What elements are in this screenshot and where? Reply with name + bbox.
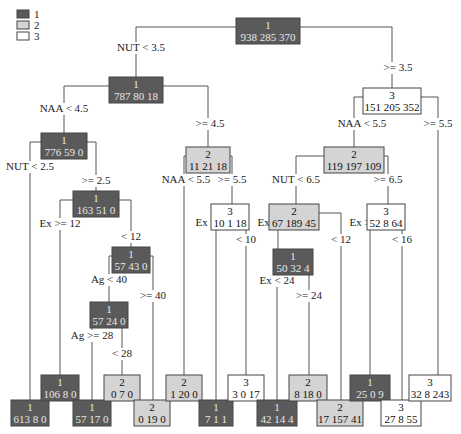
- legend: 1 2 3: [17, 8, 40, 42]
- node-class-label: 3: [227, 205, 233, 217]
- node-counts: 57 43 0: [115, 260, 149, 272]
- tree-node: 33 0 17: [228, 375, 264, 401]
- node-counts: 3 0 17: [232, 388, 260, 400]
- split-label: < 16: [392, 233, 412, 245]
- node-class-label: 1: [57, 376, 63, 388]
- split-label: >= 2.5: [82, 174, 111, 186]
- node-counts: 8 18 0: [294, 388, 322, 400]
- split-label: NAA < 4.5: [40, 102, 89, 114]
- node-counts: 1 20 0: [170, 388, 198, 400]
- legend-swatch-class-3: [17, 32, 29, 40]
- node-class-label: 2: [291, 205, 297, 217]
- node-counts: 52 8 64: [370, 217, 404, 229]
- node-class-label: 3: [389, 89, 395, 101]
- node-class-label: 2: [181, 376, 187, 388]
- tree-node: 17 1 1: [199, 400, 233, 426]
- split-label: Ag >= 28: [71, 329, 114, 341]
- node-class-label: 3: [243, 376, 249, 388]
- tree-node: 310 1 18: [211, 204, 249, 230]
- split-label: NAA < 5.5: [162, 173, 211, 185]
- tree-node: 352 8 64: [367, 204, 405, 230]
- split-label: >= 5.5: [218, 173, 247, 185]
- split-label: >= 24: [296, 289, 323, 301]
- node-class-label: 1: [133, 78, 139, 90]
- node-class-label: 1: [27, 401, 33, 413]
- node-counts: 32 8 243: [411, 388, 450, 400]
- node-counts: 776 59 0: [45, 146, 84, 158]
- split-label: Ex < 24: [260, 274, 295, 286]
- split-label: >= 40: [140, 289, 167, 301]
- node-class-label: 1: [128, 248, 134, 260]
- tree-node: 2119 197 109: [324, 147, 384, 173]
- split-label: < 12: [121, 230, 141, 242]
- node-class-label: 1: [89, 401, 95, 413]
- tree-node: 211 21 18: [186, 147, 230, 173]
- node-class-label: 1: [106, 303, 112, 315]
- tree-node: 332 8 243: [409, 375, 451, 401]
- node-counts: 57 17 0: [76, 413, 110, 425]
- node-counts: 0 19 0: [138, 413, 166, 425]
- node-class-label: 2: [337, 401, 343, 413]
- node-counts: 67 189 45: [272, 217, 317, 229]
- tree-node: 1938 285 370: [236, 18, 300, 44]
- node-counts: 10 1 18: [214, 217, 248, 229]
- node-counts: 11 21 18: [189, 160, 228, 172]
- node-class-label: 3: [383, 205, 389, 217]
- tree-node: 267 189 45: [269, 204, 319, 230]
- tree-node: 1613 8 0: [11, 400, 49, 426]
- split-label: >= 3.5: [384, 61, 413, 73]
- node-class-label: 2: [205, 148, 211, 160]
- legend-swatch-class-2: [17, 21, 29, 29]
- node-counts: 50 32 4: [277, 262, 311, 274]
- node-counts: 17 157 41: [318, 413, 362, 425]
- tree-node: 21 20 0: [166, 375, 202, 401]
- split-label: < 28: [112, 347, 132, 359]
- node-class-label: 1: [290, 250, 296, 262]
- node-class-label: 1: [274, 401, 280, 413]
- split-label: < 12: [331, 233, 351, 245]
- split-label: Ex >= 12: [39, 217, 80, 229]
- node-class-label: 2: [119, 376, 125, 388]
- node-class-label: 2: [351, 148, 357, 160]
- node-class-label: 1: [367, 376, 373, 388]
- node-class-label: 3: [398, 401, 404, 413]
- node-class-label: 1: [93, 192, 99, 204]
- node-counts: 42 14 4: [261, 413, 295, 425]
- tree-node: 157 17 0: [73, 400, 111, 426]
- split-label: >= 4.5: [196, 117, 225, 129]
- node-counts: 27 8 55: [385, 413, 419, 425]
- split-label: NUT < 2.5: [6, 160, 54, 172]
- node-class-label: 1: [61, 134, 67, 146]
- node-counts: 163 51 0: [77, 204, 116, 216]
- tree-node: 157 43 0: [112, 247, 150, 273]
- node-counts: 57 24 0: [93, 315, 127, 327]
- tree-node: 150 32 4: [273, 249, 313, 275]
- tree-node: 28 18 0: [289, 375, 327, 401]
- node-class-label: 3: [427, 376, 433, 388]
- node-counts: 151 205 352: [365, 101, 420, 113]
- split-label: NUT < 6.5: [272, 173, 320, 185]
- node-counts: 119 197 109: [327, 160, 382, 172]
- split-label: >= 5.5: [424, 117, 453, 129]
- tree-node: 20 19 0: [134, 400, 170, 426]
- node-counts: 787 80 18: [114, 90, 159, 102]
- tree-node: 3151 205 352: [363, 88, 421, 114]
- node-counts: 106 8 0: [44, 388, 78, 400]
- node-counts: 7 1 1: [205, 413, 227, 425]
- tree-node: 327 8 55: [381, 400, 421, 426]
- legend-swatch-class-1: [17, 10, 29, 18]
- split-label: Ag < 40: [91, 273, 128, 285]
- node-counts: 938 285 370: [241, 31, 297, 43]
- tree-node: 20 7 0: [104, 375, 140, 401]
- node-class-label: 2: [305, 376, 311, 388]
- node-counts: 0 7 0: [111, 388, 134, 400]
- node-counts: 25 0 9: [356, 388, 384, 400]
- tree-node: 1776 59 0: [41, 133, 87, 159]
- tree-node: 1787 80 18: [109, 77, 163, 103]
- node-counts: 613 8 0: [14, 413, 48, 425]
- tree-node: 1163 51 0: [73, 191, 119, 217]
- decision-tree: 1 2 3: [0, 0, 461, 434]
- split-label: NAA < 5.5: [338, 117, 387, 129]
- split-label: >= 6.5: [374, 173, 403, 185]
- legend-label-class-3: 3: [34, 30, 40, 42]
